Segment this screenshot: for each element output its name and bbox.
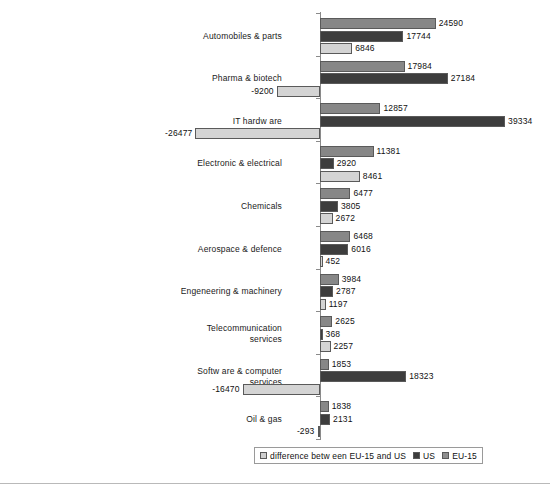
legend-swatch-us-icon (413, 452, 420, 459)
category-label: Electronic & electrical (197, 158, 282, 169)
bar-value-label: 1838 (332, 401, 352, 412)
bar-value-label: 1853 (332, 359, 352, 370)
bar-0[interactable] (320, 316, 332, 327)
axis-tick (316, 13, 321, 14)
axis-tick (316, 141, 321, 142)
category-label: Pharma & biotech (212, 73, 282, 84)
bar-value-label: 12857 (383, 103, 407, 114)
bar-value-label: 39334 (508, 116, 532, 127)
bar-value-label: 27184 (451, 73, 475, 84)
category-group: Electronic & electrical1138129208461 (0, 146, 550, 182)
category-label: Telecommunication services (207, 323, 282, 345)
bar-2[interactable] (320, 213, 333, 224)
category-group: Automobiles & parts24590177446846 (0, 18, 550, 54)
bar-2[interactable] (195, 128, 320, 139)
bar-value-label: 2257 (334, 341, 354, 352)
bar-2[interactable] (320, 299, 326, 310)
bar-value-label: 368 (326, 329, 341, 340)
bar-2[interactable] (320, 171, 360, 182)
legend-label-us: US (423, 451, 435, 461)
legend-swatch-eu15-icon (442, 452, 449, 459)
bar-0[interactable] (320, 146, 374, 157)
bar-value-label: -9200 (251, 86, 274, 97)
chart-legend: difference betw een EU-15 and US US EU-1… (254, 447, 483, 464)
legend-swatch-difference-icon (260, 452, 267, 459)
category-group: Softw are & computer services185318323-1… (0, 359, 550, 395)
category-group: Oil & gas18382131-293 (0, 401, 550, 437)
bar-0[interactable] (320, 103, 380, 114)
category-group: Chemicals647738052672 (0, 188, 550, 224)
category-label: Oil & gas (246, 414, 282, 425)
category-label: Chemicals (241, 201, 282, 212)
axis-tick (316, 311, 321, 312)
legend-item-eu15[interactable]: EU-15 (442, 451, 477, 461)
bar-value-label: 8461 (363, 171, 383, 182)
category-group: IT hardw are1285739334-26477 (0, 103, 550, 139)
bar-1[interactable] (320, 414, 330, 425)
bar-value-label: 2672 (336, 213, 356, 224)
bar-value-label: 24590 (439, 18, 463, 29)
bar-value-label: -26477 (165, 128, 192, 139)
bar-2[interactable] (318, 426, 321, 437)
bar-0[interactable] (320, 401, 329, 412)
bar-0[interactable] (320, 274, 339, 285)
bar-2[interactable] (320, 43, 352, 54)
axis-tick (316, 183, 321, 184)
bar-value-label: 3984 (342, 274, 362, 285)
bar-1[interactable] (320, 201, 338, 212)
bar-value-label: 452 (326, 256, 341, 267)
axis-tick (316, 56, 321, 57)
category-label: IT hardw are (233, 116, 282, 127)
legend-label-eu15: EU-15 (452, 451, 477, 461)
bar-value-label: 6016 (351, 244, 371, 255)
bar-0[interactable] (320, 359, 329, 370)
bar-2[interactable] (277, 86, 320, 97)
plot-area: Automobiles & parts24590177446846Pharma … (0, 0, 550, 448)
bar-value-label: 2920 (337, 158, 357, 169)
category-group: Pharma & biotech1798427184-9200 (0, 61, 550, 97)
category-label: Automobiles & parts (203, 31, 282, 42)
bar-value-label: 6468 (353, 231, 373, 242)
category-label: Engeneering & machinery (181, 286, 282, 297)
bar-value-label: 18323 (409, 371, 433, 382)
legend-item-us[interactable]: US (413, 451, 435, 461)
bar-value-label: 17984 (408, 61, 432, 72)
category-label: Aerospace & defence (198, 244, 282, 255)
legend-item-difference[interactable]: difference betw een EU-15 and US (260, 451, 406, 461)
bar-1[interactable] (320, 158, 334, 169)
bar-value-label: 6846 (355, 43, 375, 54)
bar-1[interactable] (320, 73, 448, 84)
bar-value-label: 17744 (406, 31, 430, 42)
bar-1[interactable] (320, 286, 333, 297)
bar-1[interactable] (320, 329, 323, 340)
axis-tick (316, 98, 321, 99)
bar-1[interactable] (320, 31, 403, 42)
category-group: Engeneering & machinery398427871197 (0, 274, 550, 310)
bar-value-label: -293 (297, 426, 315, 437)
axis-tick (316, 439, 321, 440)
bar-value-label: 2625 (335, 316, 355, 327)
bar-value-label: 2787 (336, 286, 356, 297)
bar-value-label: 1197 (329, 299, 348, 310)
bar-1[interactable] (320, 244, 348, 255)
bar-2[interactable] (320, 341, 331, 352)
bar-2[interactable] (243, 384, 320, 395)
bar-1[interactable] (320, 371, 406, 382)
bottom-divider (0, 483, 550, 484)
bar-value-label: 2131 (333, 414, 353, 425)
bar-0[interactable] (320, 231, 350, 242)
bar-0[interactable] (320, 18, 436, 29)
axis-tick (316, 226, 321, 227)
bar-value-label: 11381 (377, 146, 401, 157)
bar-1[interactable] (320, 116, 505, 127)
legend-label-difference: difference betw een EU-15 and US (270, 451, 406, 461)
bar-value-label: -16470 (212, 384, 239, 395)
bar-value-label: 3805 (341, 201, 361, 212)
bar-0[interactable] (320, 188, 350, 199)
bar-value-label: 6477 (353, 188, 373, 199)
category-group: Telecommunication services26253682257 (0, 316, 550, 352)
category-group: Aerospace & defence64686016452 (0, 231, 550, 267)
bar-0[interactable] (320, 61, 405, 72)
axis-tick (316, 269, 321, 270)
bar-2[interactable] (320, 256, 323, 267)
